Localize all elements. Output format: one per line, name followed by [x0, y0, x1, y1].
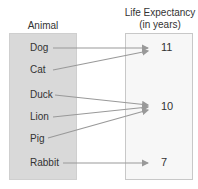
domain-item-cat: Cat [30, 64, 46, 75]
domain-item-dog: Dog [30, 42, 48, 53]
domain-item-rabbit: Rabbit [30, 157, 59, 168]
range-item-11: 11 [161, 41, 172, 53]
domain-item-duck: Duck [30, 89, 53, 100]
arrow-lion-10 [53, 107, 148, 117]
arrow-cat-11 [53, 51, 148, 70]
arrow-duck-10 [55, 95, 148, 105]
domain-item-lion: Lion [30, 111, 49, 122]
range-item-7: 7 [161, 156, 167, 168]
domain-item-pig: Pig [30, 133, 44, 144]
range-item-10: 10 [161, 100, 173, 112]
arrow-pig-10 [48, 110, 148, 138]
